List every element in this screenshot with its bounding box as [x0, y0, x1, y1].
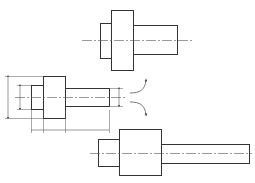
- technical-drawing: [0, 0, 255, 183]
- bottom-shaft: [90, 130, 252, 176]
- top-shaft-shaft: [134, 26, 178, 55]
- dimension-lines: [5, 76, 123, 133]
- transformation-arrows: [130, 80, 146, 115]
- bottom-shaft-small-end: [99, 140, 120, 167]
- top-shaft: [82, 11, 193, 71]
- top-shaft-small-end: [101, 24, 112, 59]
- bottom-shaft-shaft: [162, 145, 250, 164]
- bottom-shaft-collar: [120, 130, 162, 176]
- arrow-up-icon: [130, 80, 146, 93]
- arrow-down-icon: [130, 102, 146, 115]
